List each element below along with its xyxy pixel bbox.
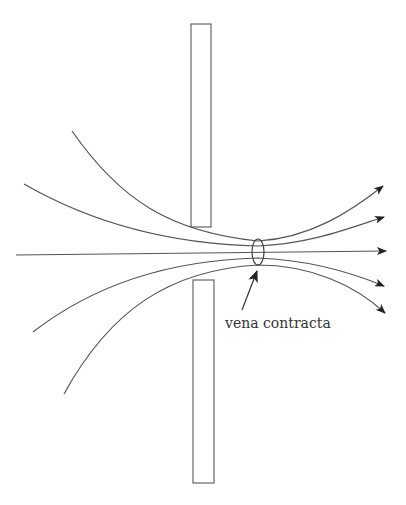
streamline-center [16,251,386,255]
orifice-plate-bottom [193,280,214,483]
vena-contracta-diagram: vena contracta [0,0,406,505]
orifice-plate-top [191,24,211,227]
vena-contracta-label: vena contracta [224,315,331,331]
vena-contracta-pointer-arrow [242,271,257,310]
